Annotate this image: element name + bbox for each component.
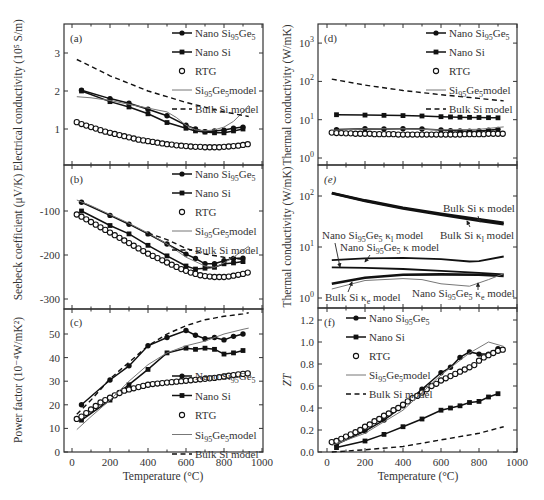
y-tick-label: 40 (49, 352, 61, 364)
legend-label: RTG (195, 206, 216, 218)
legend-label: RTG (449, 65, 470, 77)
legend-label: RTG (195, 409, 216, 421)
annotation: Bulk Si κ model (443, 202, 515, 214)
legend-label: Nano Si95Ge5 (195, 168, 256, 183)
y-tick-label: 0.8 (300, 358, 314, 370)
y-tick-label: 0.0 (300, 446, 314, 458)
panel-b-ylabel: Seebeck coefficient (μV/K) (12, 174, 25, 301)
y-tick-label: 103 (299, 35, 314, 49)
y-tick-label: 1.2 (300, 314, 314, 326)
legend-label: Nano Si95Ge5 (195, 27, 256, 42)
legend: Nano Si95Ge5Nano SiRTGSi95Ge5modelBulk S… (346, 312, 433, 400)
y-tick-label: 20 (49, 399, 61, 411)
x-tick-label: 400 (395, 456, 412, 468)
legend-label: Bulk Si model (195, 244, 259, 256)
legend-label: Si95Ge5model (195, 84, 257, 99)
y-tick-label: 0.2 (300, 424, 314, 436)
left-xlabel: Temperature (°C) (123, 470, 204, 483)
annotation: Nano Si95Ge5 κ model (340, 241, 439, 256)
legend-label: Nano Si95Ge5 (369, 312, 430, 327)
panel-f-ylabel: ZT (281, 372, 293, 386)
legend-label: Si95Ge5model (195, 429, 257, 444)
x-tick-label: 0 (69, 456, 75, 468)
x-tick-label: 600 (178, 456, 195, 468)
legend-label: Bulk Si model (369, 388, 433, 400)
panel-c-tag: (c) (70, 316, 83, 329)
legend-label: Si95Ge5model (369, 369, 431, 384)
y-tick-label: 3 (55, 47, 61, 59)
panel-d-tag: (d) (324, 32, 337, 45)
x-tick-label: 1000 (506, 456, 529, 468)
x-tick-label: 200 (357, 456, 374, 468)
right-xlabel: Temperature (°C) (378, 470, 459, 483)
panel-a-tag: (a) (70, 32, 83, 45)
legend-label: Nano Si95Ge5 (195, 370, 256, 385)
series-nano-si95ge5-l-model (332, 267, 504, 274)
legend-label: Bulk Si model (195, 448, 259, 460)
y-tick-label: 2 (55, 85, 61, 97)
y-tick-label: 1.0 (300, 336, 314, 348)
y-tick-label: 0 (55, 446, 61, 458)
legend: Nano Si95Ge5Nano SiRTGSi95Ge5modelBulk S… (172, 27, 259, 115)
y-tick-label: 102 (299, 73, 314, 87)
y-tick-label: -100 (40, 205, 61, 217)
legend-label: Nano Si (369, 331, 405, 343)
y-tick-label: 50 (49, 328, 61, 340)
legends: Nano Si95Ge5Nano SiRTGSi95Ge5modelBulk S… (172, 27, 515, 460)
series-rtg (329, 130, 505, 137)
y-tick-label: 0.4 (300, 402, 314, 414)
legend-label: Nano Si (449, 46, 485, 58)
panel-e-tag: (e) (324, 173, 337, 186)
x-tick-label: 0 (324, 456, 330, 468)
y-tick-label: 1 (55, 123, 61, 135)
legend-label: Nano Si (195, 390, 231, 402)
annotation: Bulk Si κe model (325, 291, 400, 306)
legend-label: Si95Ge5model (195, 225, 257, 240)
legend-label: RTG (195, 65, 216, 77)
y-tick-label: 102 (299, 188, 314, 202)
panel-b-tag: (b) (70, 173, 83, 186)
figure: 123-100-200-3000102030405002004006008001… (0, 0, 544, 500)
panel-a-ylabel: Electrical conductivity (10⁵ S/m) (12, 19, 25, 171)
legend-label: RTG (369, 350, 390, 362)
x-tick-label: 400 (140, 456, 157, 468)
y-tick-label: 100 (299, 150, 314, 164)
panel-c-ylabel: Power factor (10⁻⁴W/mK²) (12, 317, 25, 443)
x-tick-label: 800 (471, 456, 488, 468)
legend-label: Si95Ge5model (449, 84, 511, 99)
y-tick-label: -300 (40, 293, 61, 305)
series-nano-si (334, 391, 500, 450)
panel-b-frame (64, 165, 263, 309)
panel-e-ylabel: Thermal conductivity (W/mK) (281, 166, 294, 307)
series-nano-si95ge5-model (332, 257, 504, 262)
legend-label: Bulk Si model (449, 103, 513, 115)
y-tick-label: 101 (299, 239, 314, 253)
legend-label: Nano Si (195, 187, 231, 199)
annotation: Nano Si95Ge5 κe model (412, 287, 515, 302)
x-tick-label: 200 (102, 456, 119, 468)
legend-label: Nano Si (195, 46, 231, 58)
y-tick-label: -200 (40, 249, 61, 261)
x-tick-label: 600 (433, 456, 450, 468)
y-tick-label: 0.6 (300, 380, 314, 392)
legend-label: Nano Si95Ge5 (449, 27, 510, 42)
y-tick-label: 100 (299, 290, 314, 304)
annotation: Bulk Si κl model (440, 229, 514, 244)
y-tick-label: 10 (49, 422, 61, 434)
legend-label: Bulk Si model (195, 103, 259, 115)
y-tick-label: 30 (49, 375, 61, 387)
legend: Nano Si95Ge5Nano SiRTGSi95Ge5modelBulk S… (426, 27, 513, 115)
panel-f-tag: (f) (324, 316, 335, 329)
panel-d-ylabel: Thermal conductivity (W/mK) (281, 24, 294, 165)
y-tick-label: 101 (299, 112, 314, 126)
legend: Nano Si95Ge5Nano SiRTGSi95Ge5modelBulk S… (172, 168, 259, 256)
